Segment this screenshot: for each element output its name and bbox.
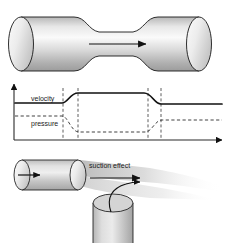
suction-effect-label: suction effect bbox=[89, 162, 130, 169]
pipe-left-end-cap bbox=[9, 17, 34, 71]
horizontal-pipe-right-opening bbox=[70, 160, 86, 190]
velocity-pressure-graph: velocity pressure bbox=[14, 84, 222, 140]
figure-canvas: velocity pressure suction effect bbox=[0, 0, 230, 248]
velocity-label: velocity bbox=[31, 95, 55, 103]
suction-effect-illustration: suction effect bbox=[14, 160, 222, 243]
venturi-pipe-group bbox=[9, 17, 212, 71]
vertical-tube-top-opening bbox=[93, 194, 133, 212]
pipe-right-end-opening bbox=[187, 17, 212, 71]
venturi-figure: velocity pressure suction effect bbox=[0, 0, 230, 248]
pressure-label: pressure bbox=[31, 120, 58, 128]
